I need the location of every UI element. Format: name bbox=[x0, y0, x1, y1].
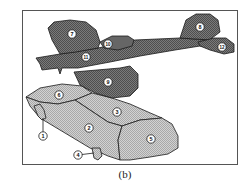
part-label-6: 6 bbox=[55, 91, 63, 99]
part-label-9: 9 bbox=[104, 78, 112, 86]
label-number: 2 bbox=[87, 125, 90, 131]
part-label-4: 4 bbox=[74, 151, 94, 159]
segmented-objects-figure: 123456789101112 (b) bbox=[0, 0, 250, 184]
car-part-4 bbox=[92, 148, 102, 160]
part-label-7: 7 bbox=[68, 30, 76, 38]
part-label-3: 3 bbox=[113, 108, 121, 116]
label-number: 7 bbox=[70, 31, 73, 37]
label-number: 11 bbox=[84, 55, 89, 60]
part-label-8: 8 bbox=[196, 23, 204, 31]
label-number: 10 bbox=[105, 42, 111, 47]
label-number: 6 bbox=[57, 92, 60, 98]
part-label-11: 11 bbox=[82, 53, 90, 61]
label-number: 5 bbox=[149, 136, 152, 142]
label-number: 9 bbox=[106, 79, 109, 85]
part-label-12: 12 bbox=[218, 43, 226, 51]
label-number: 12 bbox=[219, 45, 225, 50]
label-number: 1 bbox=[41, 133, 44, 139]
part-label-10: 10 bbox=[104, 40, 112, 48]
figure-canvas: 123456789101112 bbox=[0, 0, 250, 184]
part-label-2: 2 bbox=[85, 124, 93, 132]
label-number: 3 bbox=[115, 109, 118, 115]
figure-caption: (b) bbox=[0, 168, 250, 180]
part-label-5: 5 bbox=[147, 135, 155, 143]
label-number: 8 bbox=[198, 24, 201, 30]
airplane-part-12 bbox=[198, 38, 234, 54]
